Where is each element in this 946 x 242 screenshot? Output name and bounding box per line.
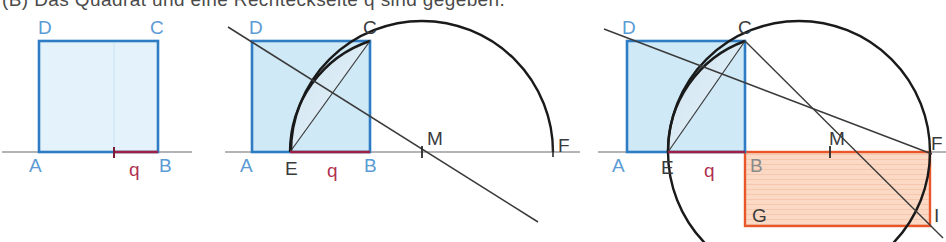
label-M-fig2: M (427, 128, 443, 149)
label-I-fig3: I (934, 205, 939, 226)
label-D-fig2: D (249, 17, 263, 38)
figure-2-semicircle-construction (225, 21, 580, 222)
label-A-fig3: A (612, 155, 625, 176)
label-F-fig3: F (931, 133, 943, 154)
label-E-fig2: E (285, 158, 298, 179)
geometry-figures: D C A B q D C A E q B M F D C A E q B M … (0, 0, 946, 242)
label-E-fig3: E (661, 157, 674, 178)
figure-1-square-and-q (2, 41, 192, 158)
label-C-fig2: C (363, 17, 377, 38)
label-F-fig2: F (558, 135, 570, 156)
label-C-fig1: C (150, 17, 164, 38)
rectangle-BGIF-3 (745, 152, 930, 226)
label-A-fig1: A (29, 155, 42, 176)
label-C-fig3: C (738, 17, 752, 38)
label-D-fig1: D (38, 17, 52, 38)
label-B-fig3: B (750, 155, 763, 176)
square-ABCD-1 (39, 41, 158, 152)
figure-3-completed-rectangle (598, 21, 946, 242)
label-B-fig2: B (364, 155, 377, 176)
figure-page: (B) Das Quadrat und eine Rechteckseite q… (0, 0, 946, 242)
label-q-fig2: q (327, 160, 338, 181)
label-M-fig3: M (829, 128, 845, 149)
label-D-fig3: D (622, 17, 636, 38)
label-q-fig3: q (704, 160, 715, 181)
label-B-fig1: B (159, 155, 172, 176)
label-G-fig3: G (752, 205, 767, 226)
label-q-fig1: q (129, 159, 140, 180)
label-A-fig2: A (240, 155, 253, 176)
